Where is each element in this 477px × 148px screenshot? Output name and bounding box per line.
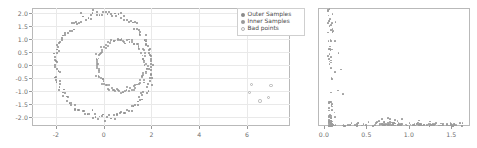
scatter-plot-left[interactable]: Outer Samples Inner Samples Bad points (32, 8, 290, 126)
point-right-stray (338, 52, 340, 54)
point-right (330, 24, 332, 26)
point-outer-sample (151, 77, 153, 79)
xtick-label-left-4: 6 (245, 131, 249, 138)
point-right (356, 125, 358, 127)
point-outer-sample (59, 83, 61, 85)
point-right (453, 123, 455, 125)
point-right (412, 124, 414, 126)
legend-item-outer-samples[interactable]: Outer Samples (241, 11, 301, 18)
scatter-plot-right[interactable] (318, 8, 470, 126)
xtick-label-right-1: 0.5 (361, 131, 371, 138)
legend-item-inner-samples[interactable]: Inner Samples (241, 18, 301, 25)
point-right (394, 125, 396, 127)
point-right (329, 53, 331, 55)
gridline-x-1 (104, 8, 105, 126)
point-outer-sample (110, 13, 112, 15)
point-inner-sample (98, 71, 100, 73)
ytick-label-left-1: 1.5 (18, 23, 28, 30)
point-right (328, 48, 330, 50)
point-inner-sample (113, 40, 115, 42)
point-right-clump (383, 121, 385, 123)
xtick-label-left-0: -2 (53, 131, 59, 138)
point-right-clump (389, 118, 391, 120)
ytick-label-left-4: 0.0 (18, 62, 28, 69)
point-outer-sample (116, 113, 118, 115)
point-outer-sample (58, 50, 60, 52)
ytick-label-left-5: -0.5 (16, 75, 28, 82)
point-bad (269, 84, 272, 87)
point-inner-sample (108, 84, 110, 86)
point-inner-sample (128, 90, 130, 92)
point-outer-sample (85, 19, 87, 21)
point-right (327, 10, 329, 12)
point-inner-sample (95, 75, 97, 77)
point-outer-sample (136, 22, 138, 24)
point-right (327, 22, 329, 24)
xtick-label-left-2: 2 (149, 131, 153, 138)
point-outer-sample (74, 104, 76, 106)
point-right-stray (342, 93, 344, 95)
point-outer-sample (136, 28, 138, 30)
point-outer-sample (148, 68, 150, 70)
point-inner-sample (147, 65, 149, 67)
ytick-mark-left-8 (29, 117, 32, 118)
point-outer-sample (101, 115, 103, 117)
point-right-clump (381, 118, 383, 120)
point-outer-sample (102, 11, 104, 13)
legend-item-bad-points[interactable]: Bad points (241, 25, 301, 32)
point-right (329, 25, 331, 27)
gridline-y-4 (32, 65, 290, 66)
xtick-mark-right-0 (324, 126, 325, 129)
point-outer-sample (90, 14, 92, 16)
point-outer-sample (134, 104, 136, 106)
point-outer-sample (101, 14, 103, 16)
point-right (406, 125, 408, 127)
point-inner-sample (131, 41, 133, 43)
point-outer-sample (64, 34, 66, 36)
point-outer-sample (73, 22, 75, 24)
point-inner-sample (145, 72, 147, 74)
point-outer-sample (131, 110, 133, 112)
point-right (363, 123, 365, 125)
point-inner-sample (143, 79, 145, 81)
xtick-label-left-3: 4 (197, 131, 201, 138)
point-outer-sample (70, 104, 72, 106)
point-right (459, 122, 461, 124)
point-right (328, 121, 330, 123)
point-right (327, 55, 329, 57)
point-outer-sample (88, 113, 90, 115)
outer-samples-marker-icon (241, 13, 245, 17)
point-right (416, 123, 418, 125)
point-outer-sample (71, 30, 73, 32)
point-outer-sample (150, 66, 152, 68)
xtick-mark-right-2 (409, 126, 410, 129)
point-outer-sample (92, 117, 94, 119)
legend[interactable]: Outer Samples Inner Samples Bad points (237, 8, 305, 36)
point-right (328, 20, 330, 22)
point-right-clump (401, 118, 403, 120)
legend-label-inner-samples: Inner Samples (248, 18, 290, 25)
point-outer-sample (76, 23, 78, 25)
point-outer-sample (78, 22, 80, 24)
point-outer-sample (123, 19, 125, 21)
point-right (335, 124, 337, 126)
ytick-label-left-8: -2.0 (16, 113, 28, 120)
point-outer-sample (148, 52, 150, 54)
point-outer-sample (138, 29, 140, 31)
ytick-mark-left-3 (29, 52, 32, 53)
point-inner-sample (134, 87, 136, 89)
point-outer-sample (150, 63, 152, 65)
point-outer-sample (64, 92, 66, 94)
inner-samples-marker-icon (241, 20, 245, 24)
point-outer-sample (141, 94, 143, 96)
point-right (334, 71, 336, 73)
point-outer-sample (114, 118, 116, 120)
xtick-label-right-0: 0.0 (319, 131, 329, 138)
legend-label-outer-samples: Outer Samples (248, 11, 292, 18)
point-right-clump (389, 123, 391, 125)
xtick-mark-right-3 (451, 126, 452, 129)
point-inner-sample (119, 39, 121, 41)
point-bad (248, 91, 251, 94)
ytick-label-left-7: -1.5 (16, 100, 28, 107)
point-right-stray (334, 40, 336, 42)
